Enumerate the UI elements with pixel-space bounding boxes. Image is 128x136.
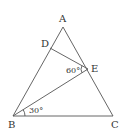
label-b: B	[8, 119, 15, 130]
label-a: A	[58, 13, 67, 24]
triangle-diagram: A D E B C 60° 30°	[0, 0, 128, 136]
segment-ab	[13, 27, 63, 116]
angle-arc-e	[81, 66, 82, 73]
segment-be	[13, 69, 88, 116]
angle-label-60: 60°	[66, 66, 80, 75]
angle-label-30: 30°	[29, 106, 43, 115]
label-e: E	[91, 63, 98, 74]
angle-arc-b	[23, 110, 25, 116]
label-d: D	[41, 38, 49, 49]
label-c: C	[111, 119, 119, 130]
